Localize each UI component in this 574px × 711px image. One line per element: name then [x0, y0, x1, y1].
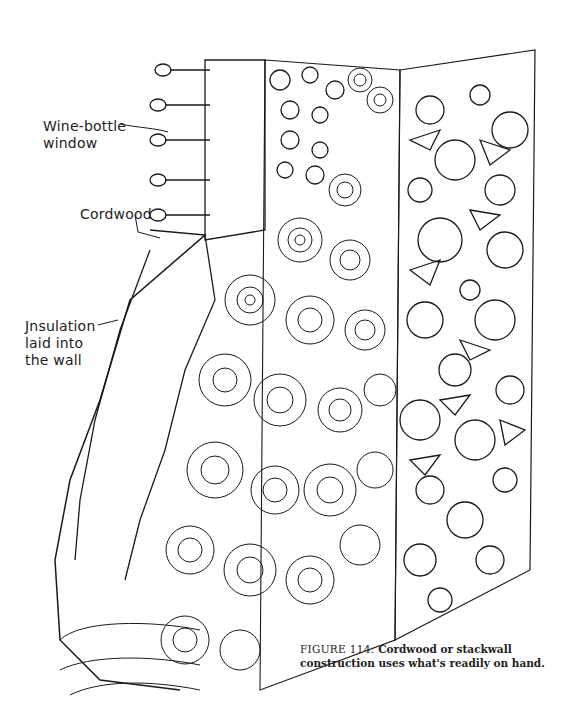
label-line: window: [43, 135, 126, 152]
wine-bottle-column: [150, 60, 265, 240]
label-line: Wine-bottle: [43, 118, 126, 135]
wall-section-cutaway: [55, 230, 215, 695]
label-line: laid into: [25, 335, 95, 352]
leader-wine-bottle: [120, 124, 168, 132]
leader-insulation: [98, 320, 118, 325]
label-insulation: Jnsulation laid into the wall: [25, 318, 95, 369]
label-cordwood: Cordwood: [80, 206, 152, 223]
figure-number: FIGURE 114:: [300, 643, 374, 655]
label-line: the wall: [25, 352, 95, 369]
stone-wall-panel: [395, 50, 535, 640]
figure-caption: FIGURE 114: Cordwood or stackwall constr…: [300, 642, 570, 670]
cordwood-face: [161, 60, 400, 690]
label-wine-bottle-window: Wine-bottle window: [43, 118, 126, 152]
label-line: Cordwood: [80, 206, 152, 223]
label-line: Jnsulation: [25, 318, 95, 335]
